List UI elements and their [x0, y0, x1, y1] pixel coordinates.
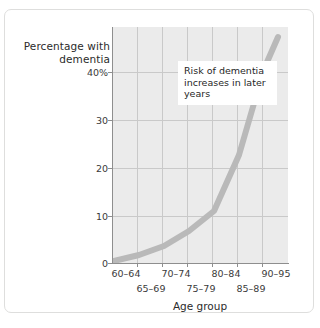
x-tick-label-75-79: 75–79	[187, 283, 216, 294]
y-tick-label-40: 40%	[68, 67, 108, 78]
x-tick-mark-1	[137, 263, 138, 267]
y-tick-mark-0	[108, 263, 112, 264]
y-tick-mark-40	[108, 72, 112, 73]
x-tick-mark-6	[262, 263, 263, 267]
y-tick-labels: 40% 30 20 10 0	[66, 27, 108, 263]
y-tick-label-30: 30	[68, 115, 108, 126]
x-tick-mark-5	[237, 263, 238, 267]
x-tick-mark-2	[162, 263, 163, 267]
y-tick-mark-20	[108, 168, 112, 169]
y-tick-mark-30	[108, 120, 112, 121]
chart-annotation: Risk of dementia increases in later year…	[178, 61, 277, 105]
x-tick-label-80-84: 80–84	[212, 268, 241, 279]
y-tick-label-0: 0	[68, 258, 108, 269]
y-tick-label-20: 20	[68, 163, 108, 174]
x-tick-label-65-69: 65–69	[137, 283, 166, 294]
y-tick-mark-10	[108, 216, 112, 217]
x-tick-label-70-74: 70–74	[162, 268, 191, 279]
x-tick-mark-3	[187, 263, 188, 267]
x-tick-label-60-64: 60–64	[112, 268, 141, 279]
x-tick-label-90-95: 90–95	[262, 268, 291, 279]
x-tick-mark-4	[212, 263, 213, 267]
x-axis-title: Age group	[112, 300, 288, 312]
chart-figure: Percentage with dementia 40% 30 20 10 0 …	[0, 0, 320, 328]
y-axis-line	[112, 27, 113, 264]
y-tick-label-10: 10	[68, 211, 108, 222]
x-tick-label-85-89: 85–89	[237, 283, 266, 294]
